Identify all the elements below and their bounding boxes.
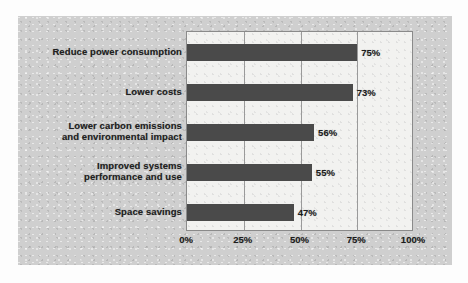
- category-label: Reduce power consumption: [22, 46, 182, 57]
- category-label: Lower costs: [22, 86, 182, 97]
- bar-value-label: 75%: [361, 44, 380, 61]
- x-tick-label: 100%: [401, 234, 425, 245]
- category-label-line: Space savings: [22, 206, 182, 217]
- plot-area: 75%73%56%55%47%: [186, 31, 413, 231]
- category-label-line: and environmental impact: [22, 131, 182, 142]
- bar-chart-figure: Reduce power consumptionLower costsLower…: [0, 0, 468, 283]
- category-label-line: performance and use: [22, 171, 182, 182]
- category-label-line: Improved systems: [22, 160, 182, 171]
- category-axis-labels: Reduce power consumptionLower costsLower…: [22, 31, 182, 231]
- category-label-line: Reduce power consumption: [22, 46, 182, 57]
- category-label-line: Lower carbon emissions: [22, 120, 182, 131]
- bar-value-label: 73%: [357, 84, 376, 101]
- category-label-line: Lower costs: [22, 86, 182, 97]
- x-tick-label: 25%: [233, 234, 252, 245]
- bar-value-label: 47%: [298, 204, 317, 221]
- category-label: Improved systemsperformance and use: [22, 160, 182, 182]
- bar-value-label: 55%: [316, 164, 335, 181]
- category-label: Space savings: [22, 206, 182, 217]
- x-axis-ticks: 0%25%50%75%100%: [186, 234, 413, 250]
- bar: [187, 124, 314, 141]
- bar: [187, 44, 357, 61]
- bar-value-label: 56%: [318, 124, 337, 141]
- category-label: Lower carbon emissionsand environmental …: [22, 120, 182, 142]
- gridline-75%: [357, 32, 358, 230]
- bar: [187, 84, 353, 101]
- x-tick-label: 0%: [179, 234, 193, 245]
- x-tick-label: 75%: [347, 234, 366, 245]
- bar: [187, 204, 294, 221]
- x-tick-label: 50%: [290, 234, 309, 245]
- bar: [187, 164, 312, 181]
